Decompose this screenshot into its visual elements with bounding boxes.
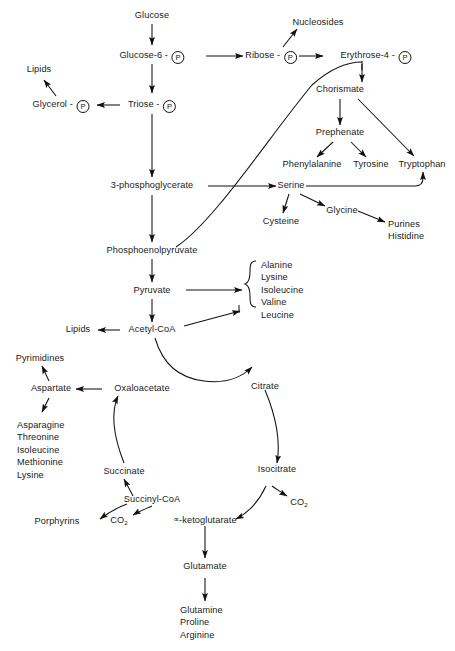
node-erythrose-4-phosphate: Erythrose-4 - P [340,50,411,64]
node-acetyl-coa: Acetyl-CoA [129,324,176,336]
node-co2-isocitrate: CO2 [290,497,308,511]
node-glucose: Glucose [135,10,169,22]
node-lipids-mid: Lipids [66,324,91,336]
node-aspartate: Aspartate [31,383,71,395]
node-co2-succinyl: CO2 [110,515,128,529]
node-lipids-top: Lipids [27,64,52,76]
node-tyrosine: Tyrosine [353,159,389,171]
node-pyrimidines: Pyrimidines [16,353,65,365]
node-succinyl-coa: Succinyl-CoA [124,494,180,506]
node-prephenate: Prephenate [316,127,365,139]
node-chorismate: Chorismate [316,84,364,96]
metabolic-pathway-diagram: Glucose Glucose-6 - P Ribose - P Erythro… [0,0,455,651]
phosphate-badge-icon: P [284,51,297,64]
node-glycerol-phosphate: Glycerol - P [33,99,90,113]
node-co2-isocitrate-label: CO [290,497,304,507]
phosphate-badge-icon: P [399,51,412,64]
node-phosphoenolpyruvate: Phosphoenolpyruvate [107,245,198,257]
node-serine: Serine [277,180,304,192]
subscript-2: 2 [124,519,128,526]
node-nucleosides: Nucleosides [292,17,343,29]
phosphate-badge-icon: P [76,100,89,113]
node-glycine: Glycine [326,205,357,217]
node-succinate: Succinate [103,466,144,478]
node-ribose-phosphate-label: Ribose - [245,50,283,60]
node-tryptophan: Tryptophan [398,159,445,171]
node-isocitrate: Isocitrate [258,464,296,476]
node-purines-histidine: Purines Histidine [388,218,424,243]
node-glucose-6-phosphate: Glucose-6 - P [119,50,184,64]
node-phenylalanine: Phenylalanine [282,159,341,171]
phosphate-badge-icon: P [163,100,176,113]
node-triose-phosphate-label: Triose - [128,99,162,109]
node-3-phosphoglycerate: 3-phosphoglycerate [111,180,194,192]
node-glutamate: Glutamate [183,561,226,573]
node-cysteine: Cysteine [263,216,300,228]
node-ribose-phosphate: Ribose - P [245,50,297,64]
node-pyruvate: Pyruvate [133,285,170,297]
node-oxaloacetate: Oxaloacetate [114,383,169,395]
phosphate-badge-icon: P [172,51,185,64]
subscript-2: 2 [304,501,308,508]
node-glutamate-family: Glutamine Proline Arginine [180,604,223,641]
node-glucose-6-phosphate-label: Glucose-6 - [119,50,170,60]
node-glycerol-phosphate-label: Glycerol - [33,99,76,109]
node-alpha-ketoglutarate-label: -ketoglutarate [179,515,237,525]
node-alpha-ketoglutarate: ∝-ketoglutarate [173,514,236,527]
node-aspartate-family: Asparagine Threonine Isoleucine Methioni… [17,419,64,481]
node-porphyrins: Porphyrins [35,516,80,528]
node-triose-phosphate: Triose - P [128,99,176,113]
node-citrate: Citrate [251,381,279,393]
node-co2-succinyl-label: CO [110,515,124,525]
node-erythrose-4-phosphate-label: Erythrose-4 - [340,50,397,60]
node-branched-amino-acids: Alanine Lysine Isoleucine Valine Leucine [261,259,303,321]
